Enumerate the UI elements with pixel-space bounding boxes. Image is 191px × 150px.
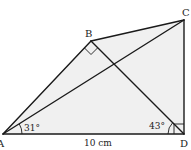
- vertex-label-a: A: [0, 138, 5, 149]
- vertex-label-c: C: [182, 7, 190, 18]
- geometry-diagram: A B C D 31° 43° 10 cm: [0, 0, 191, 150]
- vertex-label-b: B: [85, 28, 92, 39]
- vertex-label-d: D: [180, 138, 188, 149]
- angle-label-a: 31°: [24, 123, 40, 133]
- angle-label-d: 43°: [149, 121, 165, 131]
- side-length-label-ad: 10 cm: [84, 138, 112, 148]
